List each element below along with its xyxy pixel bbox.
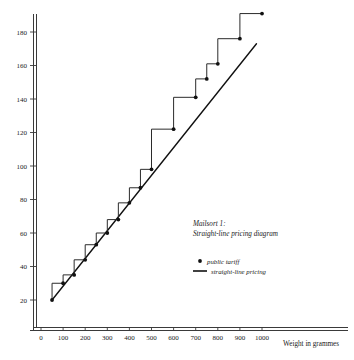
y-axis-tick-label: 100	[17, 163, 28, 171]
x-axis-tick-label: 600	[168, 334, 179, 342]
data-point-marker	[83, 258, 87, 262]
x-axis-ticks: 01002003004005006007008009001000	[39, 328, 269, 342]
x-axis-tick-label: 100	[58, 334, 69, 342]
y-axis-tick-label: 60	[20, 230, 28, 238]
x-axis-tick-label: 300	[102, 334, 113, 342]
data-point-marker	[150, 167, 154, 171]
y-axis-tick-label: 40	[20, 263, 28, 271]
x-axis-tick-label: 900	[235, 334, 246, 342]
annotation-line-1: Mailsort 1:	[192, 220, 226, 228]
x-axis-tick-label: 0	[39, 334, 43, 342]
plot-axes	[30, 14, 348, 331]
data-point-marker	[94, 243, 98, 247]
data-point-marker	[105, 231, 109, 235]
y-axis-tick-label: 140	[17, 96, 28, 104]
x-axis-tick-label: 500	[146, 334, 157, 342]
x-axis-tick-label: 800	[213, 334, 224, 342]
data-point-marker	[139, 186, 143, 190]
x-axis-tick-label: 200	[80, 334, 91, 342]
x-axis-tick-label: 700	[190, 334, 201, 342]
data-point-marker	[194, 95, 198, 99]
data-point-marker	[61, 281, 65, 285]
legend-label-straight-line-pricing: straight-line pricing	[211, 268, 267, 275]
y-axis-tick-label: 180	[17, 29, 28, 37]
data-point-marker	[50, 298, 54, 302]
x-axis-tick-label: 400	[124, 334, 135, 342]
chart-container: 20406080100120140160180 0100200300400500…	[0, 0, 354, 360]
annotation-line-2: Straight-line pricing diagram	[193, 230, 278, 238]
data-point-marker	[72, 273, 76, 277]
legend-label-public-tariff: public tariff	[206, 258, 240, 265]
data-point-marker	[238, 37, 242, 41]
y-axis-tick-label: 20	[20, 297, 28, 305]
y-axis-tick-label: 120	[17, 129, 28, 137]
x-axis-tick-label: 1000	[255, 334, 270, 342]
data-point-marker	[172, 127, 176, 131]
pricing-chart: 20406080100120140160180 0100200300400500…	[0, 0, 354, 360]
data-point-marker	[127, 201, 131, 205]
x-axis-title: Weight in grammes	[283, 340, 339, 348]
data-point-marker	[216, 62, 220, 66]
legend-dot-icon	[198, 259, 202, 263]
chart-annotation: Mailsort 1: Straight-line pricing diagra…	[192, 220, 278, 238]
data-point-marker	[205, 77, 209, 81]
chart-legend: public tariff straight-line pricing	[193, 258, 267, 275]
y-axis-tick-label: 80	[20, 196, 28, 204]
data-point-marker	[116, 218, 120, 222]
y-axis-tick-label: 160	[17, 62, 28, 70]
data-point-marker	[260, 12, 264, 16]
